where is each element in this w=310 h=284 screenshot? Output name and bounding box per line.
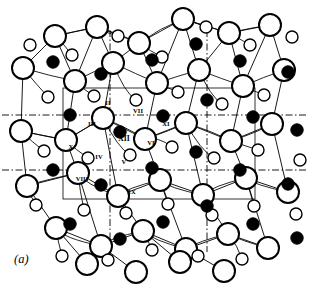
small-open-circle-oxygen — [24, 39, 36, 51]
large-open-circle-oxygen — [107, 185, 129, 207]
large-open-circle-oxygen — [261, 113, 283, 135]
filled-circle-cation — [114, 233, 126, 245]
small-open-circle-oxygen — [30, 199, 42, 211]
small-open-circle-oxygen — [252, 144, 264, 156]
filled-circle-cation — [282, 178, 294, 190]
structure-diagram — [0, 0, 310, 284]
large-open-circle-oxygen — [213, 260, 235, 282]
large-open-circle-oxygen — [218, 22, 240, 44]
small-open-circle-oxygen — [38, 145, 50, 157]
site-label-iv: IV — [95, 154, 102, 161]
site-label-viii: VIII — [76, 176, 89, 183]
large-open-circle-oxygen — [10, 120, 32, 142]
small-open-circle-oxygen — [200, 21, 212, 33]
filled-circle-cation — [64, 218, 76, 230]
large-open-circle-oxygen — [125, 261, 147, 283]
small-open-circle-oxygen — [244, 39, 256, 51]
large-open-circle-oxygen — [175, 112, 197, 134]
small-open-circle-oxygen — [236, 253, 248, 265]
filled-circle-cation — [291, 124, 303, 136]
filled-circle-cation — [47, 56, 59, 68]
filled-circle-cation — [157, 216, 169, 228]
small-open-circle-oxygen — [286, 31, 298, 43]
large-open-circle-oxygen — [12, 57, 34, 79]
large-open-circle-oxygen — [16, 175, 38, 197]
site-label-ii: II — [105, 100, 110, 107]
filled-circle-cation — [190, 146, 202, 158]
filled-circle-cation — [201, 200, 213, 212]
site-label-xii: XII — [118, 135, 130, 143]
small-open-circle-oxygen — [130, 94, 142, 106]
large-open-circle-oxygen — [45, 217, 67, 239]
large-open-circle-oxygen — [44, 25, 66, 47]
small-open-circle-oxygen — [192, 250, 204, 262]
filled-circle-cation — [47, 164, 59, 176]
large-open-circle-oxygen — [86, 16, 108, 38]
filled-circle-cation — [282, 66, 294, 78]
filled-circle-cation — [146, 54, 158, 66]
small-open-circle-oxygen — [166, 141, 178, 153]
filled-circle-cation — [95, 68, 107, 80]
small-open-circle-oxygen — [102, 254, 114, 266]
filled-circle-cation — [190, 38, 202, 50]
large-open-circle-oxygen — [188, 59, 210, 81]
large-open-circle-oxygen — [169, 251, 191, 273]
filled-circle-cation — [201, 94, 213, 106]
small-open-circle-oxygen — [56, 250, 68, 262]
small-open-circle-oxygen — [172, 86, 184, 98]
small-open-circle-oxygen — [112, 30, 124, 42]
small-open-circle-oxygen — [82, 152, 94, 164]
large-open-circle-oxygen — [259, 14, 281, 36]
large-open-circle-oxygen — [232, 75, 254, 97]
site-label-v: V — [122, 159, 127, 166]
filled-circle-cation — [247, 218, 259, 230]
large-open-circle-oxygen — [64, 70, 86, 92]
large-open-circle-oxygen — [257, 237, 279, 259]
filled-circle-cation — [291, 232, 303, 244]
small-open-circle-oxygen — [42, 91, 54, 103]
small-open-circle-oxygen — [248, 200, 260, 212]
small-open-circle-oxygen — [290, 208, 302, 220]
filled-circle-cation — [95, 179, 107, 191]
small-open-circle-oxygen — [208, 152, 220, 164]
large-open-circle-oxygen — [220, 130, 242, 152]
large-open-circle-oxygen — [132, 220, 154, 242]
crystal-structure-figure: IIIIIVIIXIXIIVIXIVVVIIIIX (a) — [0, 0, 310, 284]
small-open-circle-oxygen — [78, 204, 90, 216]
small-open-circle-oxygen — [88, 90, 100, 102]
filled-circle-cation — [234, 55, 246, 67]
site-label-vii: VII — [133, 108, 143, 115]
small-open-circle-oxygen — [258, 89, 270, 101]
site-label-vi: VI — [147, 140, 154, 147]
small-open-circle-oxygen — [216, 98, 228, 110]
small-open-circle-oxygen — [120, 207, 132, 219]
small-open-circle-oxygen — [66, 49, 78, 61]
small-open-circle-oxygen — [146, 244, 158, 256]
small-open-circle-oxygen — [162, 198, 174, 210]
site-label-ix: IX — [128, 189, 135, 196]
filled-circle-cation — [247, 111, 259, 123]
large-open-circle-oxygen — [217, 223, 239, 245]
large-open-circle-oxygen — [76, 253, 98, 275]
site-label-iii: III — [88, 121, 96, 128]
small-open-circle-oxygen — [294, 154, 306, 166]
filled-circle-cation — [146, 162, 158, 174]
large-open-circle-oxygen — [146, 72, 168, 94]
filled-circle-cation — [64, 109, 76, 121]
site-label-xi: XI — [162, 121, 169, 128]
large-open-circle-oxygen — [128, 32, 150, 54]
filled-circle-cation — [234, 164, 246, 176]
site-label-x: X — [69, 144, 74, 151]
large-open-circle-oxygen — [172, 8, 194, 30]
large-open-circle-oxygen — [55, 129, 77, 151]
figure-caption: (a) — [14, 252, 29, 267]
